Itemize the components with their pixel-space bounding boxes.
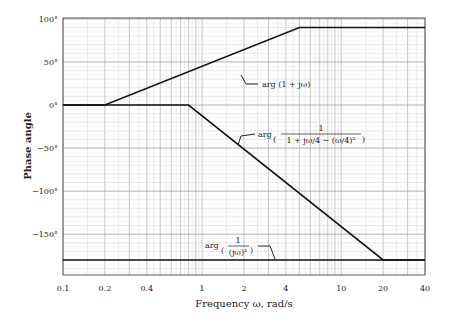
annotation-arg-second-order: arg ( 1 1 + jω/4 − (ω/4)² )	[238, 124, 365, 145]
y-tick-label: −100°	[32, 187, 58, 196]
x-tick-label: 40	[420, 284, 430, 293]
right-paren: )	[250, 246, 253, 255]
x-tick-label: 0.2	[99, 284, 112, 293]
x-tick-label: 2	[241, 284, 246, 293]
x-axis-ticks: 0.10.20.4124102040	[57, 284, 430, 293]
fraction-denominator: (jω)²	[229, 248, 247, 257]
x-tick-label: 20	[378, 284, 388, 293]
fraction-numerator: 1	[318, 124, 323, 133]
x-tick-label: 0.4	[140, 284, 153, 293]
x-tick-label: 1	[200, 284, 205, 293]
y-tick-label: 50°	[44, 58, 58, 67]
right-paren: )	[362, 135, 365, 144]
x-axis-label: Frequency ω, rad/s	[195, 298, 292, 309]
annotation-arg-1-plus-jw: arg (1 + jω)	[241, 75, 310, 89]
y-tick-label: 100°	[39, 15, 58, 24]
left-paren: (	[221, 246, 224, 255]
fraction-denominator: 1 + jω/4 − (ω/4)²	[286, 136, 355, 145]
x-tick-label: 0.1	[57, 284, 70, 293]
y-axis-label: Phase angle	[22, 112, 33, 180]
y-tick-label: −150°	[32, 230, 58, 239]
y-axis-ticks: 100°50°0°−50°−100°−150°	[32, 15, 58, 239]
y-tick-label: 0°	[49, 101, 58, 110]
annotation-prefix: arg	[258, 130, 272, 139]
bode-phase-chart: 100°50°0°−50°−100°−150° 0.10.20.41241020…	[0, 0, 451, 324]
fraction-numerator: 1	[235, 236, 240, 245]
x-tick-label: 4	[283, 284, 288, 293]
annotation-label: arg (1 + jω)	[262, 80, 310, 89]
annotation-prefix: arg	[205, 241, 219, 250]
y-tick-label: −50°	[37, 144, 58, 153]
left-paren: (	[273, 135, 276, 144]
grid	[63, 18, 425, 275]
x-tick-label: 10	[336, 284, 346, 293]
